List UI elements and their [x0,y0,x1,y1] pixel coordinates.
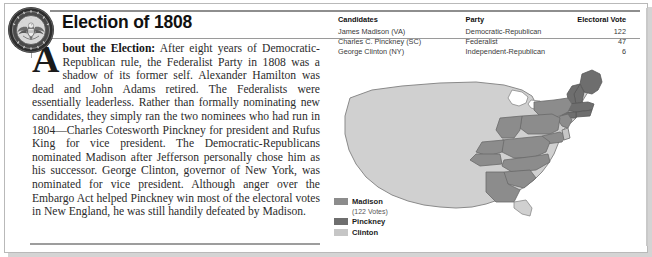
page-right-edge [646,8,648,246]
table-row: Charles C. Pinckney (SC) Federalist 47 [338,37,640,47]
legend-swatch-madison [334,198,348,205]
legend-swatch-pinckney [334,218,348,225]
legend-sub-madison: (122 Votes) [352,207,388,216]
column-header-candidates: Candidates [338,15,466,27]
table-row: James Madison (VA) Democratic-Republican… [338,27,640,37]
cell-electoral-vote: 122 [577,27,640,37]
article-body: About the Election: After eight years of… [32,42,320,219]
legend-item-pinckney: Pinckney [334,217,388,227]
almanac-page: Election of 1808 About the Election: Aft… [0,0,652,257]
cell-party: Democratic-Republican [466,27,578,37]
cell-candidate: George Clinton (NY) [338,47,466,57]
article-bottom-rule [30,243,320,245]
article-lead-in: bout the Election: [62,42,155,55]
legend-swatch-clinton [334,229,348,236]
table-row: George Clinton (NY) Independent-Republic… [338,47,640,57]
cell-candidate: Charles C. Pinckney (SC) [338,37,466,47]
map-legend: Madison (122 Votes) Pinckney Clinton [334,196,388,238]
legend-label-pinckney: Pinckney [352,217,385,226]
article-text: After eight years of Democratic-Republic… [32,42,320,218]
page-title: Election of 1808 [62,12,192,33]
legend-item-madison: Madison [334,196,388,206]
cell-party: Federalist [466,37,578,47]
cell-candidate: James Madison (VA) [338,27,466,37]
cell-electoral-vote: 47 [577,37,640,47]
cell-party: Independent-Republican [466,47,578,57]
table-header-row: Candidates Party Electoral Vote [338,15,640,27]
column-header-party: Party [466,15,578,27]
cell-electoral-vote: 6 [577,47,640,57]
legend-label-madison: Madison [352,197,383,206]
results-top-rule [336,10,640,12]
presidential-seal-icon [7,6,55,54]
legend-label-clinton: Clinton [352,228,378,237]
results-table: Candidates Party Electoral Vote James Ma… [338,15,640,57]
legend-item-clinton: Clinton [334,227,388,237]
column-header-electoral-vote: Electoral Vote [577,15,640,27]
